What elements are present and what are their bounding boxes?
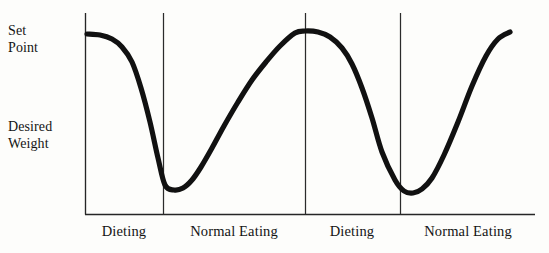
x-axis-label-normal-eating-2: Normal Eating xyxy=(424,222,512,240)
x-axis-label-dieting-2: Dieting xyxy=(330,222,375,240)
line-chart-plot xyxy=(0,0,549,253)
x-axis-label-normal-eating-1: Normal Eating xyxy=(190,222,278,240)
x-axis-label-dieting-1: Dieting xyxy=(102,222,147,240)
figure-canvas: Set Point Desired Weight Dieting Normal … xyxy=(0,0,549,253)
weight-curve-line xyxy=(87,31,510,193)
